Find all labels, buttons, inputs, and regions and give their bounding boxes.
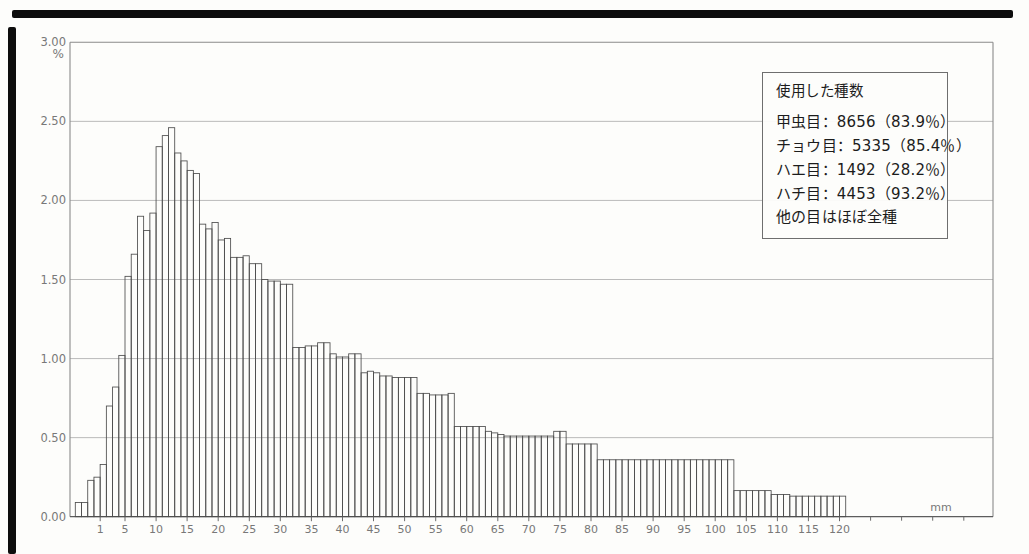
- bar: [740, 491, 746, 517]
- histogram-bars: [75, 128, 845, 517]
- bar: [94, 477, 100, 517]
- bar: [255, 264, 261, 517]
- bar: [367, 371, 373, 516]
- bar: [840, 496, 846, 517]
- bar: [541, 436, 547, 517]
- bar: [243, 256, 249, 517]
- bar: [647, 460, 653, 517]
- bar: [342, 357, 348, 517]
- bar: [554, 431, 560, 516]
- y-axis-unit-label: %: [53, 47, 64, 61]
- x-tick-label: 25: [242, 523, 256, 536]
- bar: [703, 460, 709, 517]
- bar: [579, 444, 585, 517]
- bar: [784, 495, 790, 517]
- bar: [349, 354, 355, 517]
- bar: [311, 346, 317, 517]
- bar: [156, 147, 162, 517]
- bar: [566, 444, 572, 517]
- x-tick-label: 15: [180, 523, 194, 536]
- bar: [113, 387, 119, 517]
- bar: [504, 436, 510, 517]
- bar: [224, 238, 230, 516]
- x-tick-label: 1: [97, 523, 104, 536]
- bar: [82, 502, 88, 516]
- bar: [734, 491, 740, 517]
- bar: [765, 491, 771, 517]
- x-tick-label: 20: [211, 523, 225, 536]
- bar: [516, 436, 522, 517]
- bar: [181, 161, 187, 517]
- bar: [678, 460, 684, 517]
- x-tick-label: 90: [646, 523, 660, 536]
- bar: [417, 393, 423, 516]
- x-axis-ticks: [100, 517, 964, 522]
- x-tick-label: 85: [615, 523, 629, 536]
- bar: [318, 343, 324, 517]
- bar: [610, 460, 616, 517]
- bar: [659, 460, 665, 517]
- bar: [88, 480, 94, 516]
- bar: [510, 436, 516, 517]
- bar: [398, 378, 404, 517]
- legend-entry-coleoptera: 甲虫目：8656（83.9％）: [776, 110, 947, 134]
- bar: [529, 436, 535, 517]
- bar: [653, 460, 659, 517]
- legend-entry-lepidoptera: チョウ目：5335（85.4％）: [776, 134, 947, 158]
- x-tick-label: 110: [767, 523, 788, 536]
- bar: [423, 393, 429, 516]
- bar: [237, 257, 243, 516]
- bar: [280, 284, 286, 516]
- x-tick-label: 30: [273, 523, 287, 536]
- bar: [715, 460, 721, 517]
- x-tick-label: 95: [677, 523, 691, 536]
- bar: [274, 281, 280, 517]
- bar: [330, 354, 336, 517]
- legend-box: 使用した種数 甲虫目：8656（83.9％） チョウ目：5335（85.4％） …: [762, 72, 948, 239]
- bar: [287, 284, 293, 516]
- bar: [591, 444, 597, 517]
- bar: [628, 460, 634, 517]
- bar: [790, 496, 796, 517]
- bar: [815, 496, 821, 517]
- bar: [473, 427, 479, 517]
- bar: [721, 460, 727, 517]
- x-tick-label: 100: [705, 523, 726, 536]
- bar: [200, 224, 206, 517]
- y-tick-label: 0.00: [40, 510, 66, 524]
- bar: [299, 348, 305, 517]
- bar: [249, 264, 255, 517]
- bar: [411, 378, 417, 517]
- bar: [585, 444, 591, 517]
- x-tick-label: 80: [584, 523, 598, 536]
- y-tick-label: 1.00: [40, 352, 66, 366]
- bar: [641, 460, 647, 517]
- bar: [212, 223, 218, 517]
- x-tick-label: 70: [522, 523, 536, 536]
- bar: [492, 433, 498, 517]
- y-tick-label: 0.50: [40, 431, 66, 445]
- bar: [324, 343, 330, 517]
- bar: [268, 281, 274, 517]
- bar: [560, 431, 566, 516]
- bar: [193, 174, 199, 517]
- x-tick-label: 60: [460, 523, 474, 536]
- bar: [597, 460, 603, 517]
- bar: [405, 378, 411, 517]
- bar: [386, 376, 392, 517]
- x-tick-label: 50: [398, 523, 412, 536]
- bar: [759, 491, 765, 517]
- bar: [622, 460, 628, 517]
- bar: [162, 136, 168, 517]
- legend-entry-diptera: ハエ目：1492（28.2％）: [776, 158, 947, 182]
- bar: [808, 496, 814, 517]
- bar: [131, 254, 137, 517]
- bar: [771, 495, 777, 517]
- y-tick-label: 1.50: [40, 273, 66, 287]
- bar: [336, 357, 342, 517]
- bar: [429, 395, 435, 517]
- bar: [796, 496, 802, 517]
- bar: [262, 280, 268, 517]
- bar: [187, 170, 193, 516]
- bar: [523, 436, 529, 517]
